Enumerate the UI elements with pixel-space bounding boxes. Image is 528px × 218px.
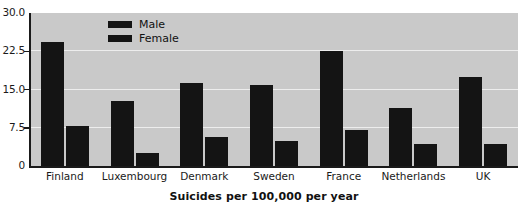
y-tick-label: 7.5 [0,122,25,133]
x-axis-label-sweden: Sweden [239,170,309,183]
legend-label-male: Male [139,19,165,31]
bar-male-finland [41,42,64,166]
bar-male-france [320,51,343,166]
bar-male-netherlands [389,108,412,166]
y-tick-label: 22.5 [0,45,25,56]
legend-label-female: Female [139,33,179,45]
y-tick-label: 15.0 [0,84,25,95]
y-tick-label: 0 [0,160,25,171]
bar-male-sweden [250,85,273,166]
bar-female-sweden [275,141,298,167]
bar-group [320,13,368,166]
x-axis-label-france: France [309,170,379,183]
x-axis-label-luxembourg: Luxembourg [100,170,170,183]
x-axis-title: Suicides per 100,000 per year [0,190,528,203]
bar-group [389,13,437,166]
x-axis-label-netherlands: Netherlands [379,170,449,183]
plot-area [30,13,518,166]
bar-group [250,13,298,166]
x-axis-label-finland: Finland [30,170,100,183]
bar-male-uk [459,77,482,166]
bar-chart: 30.022.515.07.50 FinlandLuxembourgDenmar… [0,0,528,218]
legend-swatch-female [108,35,132,42]
bar-male-luxembourg [111,101,134,166]
x-axis-label-uk: UK [448,170,518,183]
x-axis-label-denmark: Denmark [169,170,239,183]
legend-item-female: Female [108,32,179,45]
bar-female-finland [66,126,89,166]
bar-female-france [345,130,368,166]
legend-swatch-male [108,21,132,28]
bar-female-uk [484,144,507,166]
legend-item-male: Male [108,18,179,31]
bar-group [459,13,507,166]
bar-group [41,13,89,166]
legend: MaleFemale [108,18,179,46]
bar-male-denmark [180,83,203,166]
bar-female-luxembourg [136,153,159,166]
x-axis-line [29,166,518,168]
bar-group [180,13,228,166]
bar-female-netherlands [414,144,437,166]
bar-female-denmark [205,137,228,166]
y-tick-label: 30.0 [0,7,25,18]
